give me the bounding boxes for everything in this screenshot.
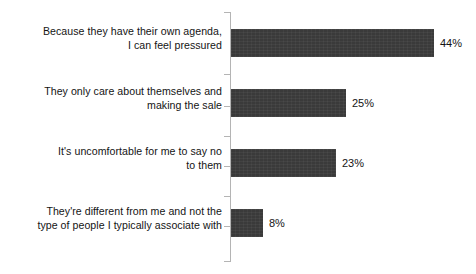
bar-value-label: 23% — [342, 158, 364, 169]
bar-value-label: 44% — [440, 38, 462, 49]
bar-series-0[interactable] — [231, 29, 434, 57]
category-label-line: type of people I typically associate wit… — [8, 218, 222, 232]
axis-tick-0 — [224, 12, 230, 13]
category-label-line: I can feel pressured — [8, 38, 222, 52]
category-label: They only care about themselves and maki… — [8, 84, 222, 112]
bar-series-2[interactable] — [231, 149, 336, 177]
category-label-line: to them — [8, 158, 222, 172]
bar-series-3[interactable] — [231, 209, 263, 237]
category-label-line: making the sale — [8, 98, 222, 112]
category-label: Because they have their own agenda, I ca… — [8, 24, 222, 52]
horizontal-bar-chart: Because they have their own agenda, I ca… — [0, 0, 476, 274]
category-label-line: They only care about themselves and — [8, 84, 222, 98]
category-label: It's uncomfortable for me to say no to t… — [8, 144, 222, 172]
chart-row: They only care about themselves and maki… — [0, 84, 476, 144]
category-label-line: They're different from me and not the — [8, 204, 222, 218]
chart-row: They're different from me and not the ty… — [0, 204, 476, 264]
bar-value-label: 25% — [352, 98, 374, 109]
category-label: They're different from me and not the ty… — [8, 204, 222, 232]
bar-value-label: 8% — [269, 218, 285, 229]
chart-row: Because they have their own agenda, I ca… — [0, 24, 476, 84]
category-label-line: Because they have their own agenda, — [8, 24, 222, 38]
category-label-line: It's uncomfortable for me to say no — [8, 144, 222, 158]
chart-row: It's uncomfortable for me to say no to t… — [0, 144, 476, 204]
bar-series-1[interactable] — [231, 89, 346, 117]
